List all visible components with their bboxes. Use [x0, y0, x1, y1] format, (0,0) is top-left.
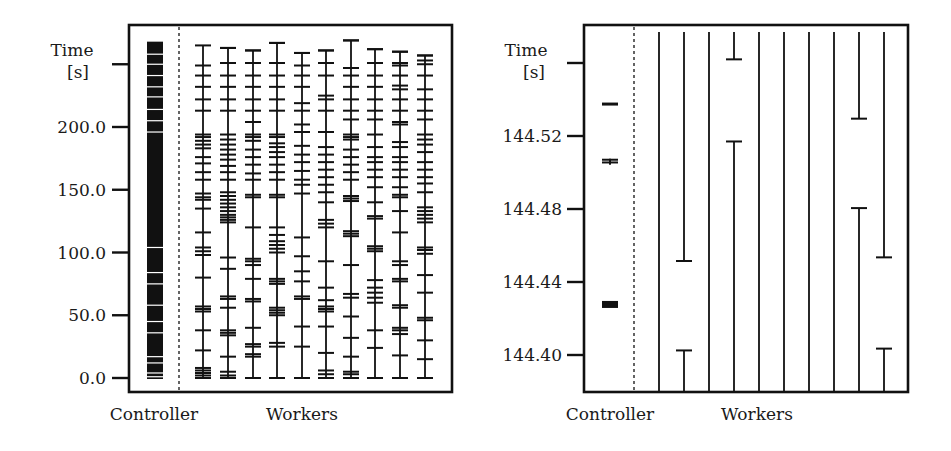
y-tick-label: 0.0: [79, 368, 106, 388]
controller-gap: [147, 131, 163, 132]
controller-gap: [147, 86, 163, 87]
worker-timeline: [392, 52, 408, 378]
left-y-label-time: Time: [51, 40, 94, 60]
left-controller-activity: [147, 42, 163, 379]
controller-gap: [147, 376, 163, 377]
worker-timeline: [876, 32, 892, 391]
right-y-label-unit: [s]: [523, 62, 545, 82]
timeline-figure: 0.050.0100.0150.0200.0 Time [s] Controll…: [0, 0, 951, 451]
worker-timeline: [195, 45, 211, 378]
controller-gap: [147, 120, 163, 121]
controller-gap: [147, 272, 163, 273]
controller-gap: [147, 356, 163, 357]
y-tick-label: 144.48: [503, 199, 562, 219]
worker-timeline: [245, 50, 261, 378]
left-x-label-controller: Controller: [110, 404, 199, 424]
left-plot-frame: [129, 25, 452, 392]
right-x-label-controller: Controller: [566, 404, 655, 424]
controller-gap: [147, 247, 163, 248]
y-tick-label: 200.0: [57, 117, 106, 137]
worker-timeline: [318, 50, 334, 378]
controller-gap: [147, 64, 163, 65]
y-tick-label: 144.44: [503, 272, 562, 292]
right-x-label-workers: Workers: [721, 404, 793, 424]
controller-gap: [147, 75, 163, 76]
y-tick-label: 100.0: [57, 243, 106, 263]
controller-gap: [147, 54, 163, 55]
y-tick-label: 144.52: [503, 126, 562, 146]
right-y-axis: 144.40144.44144.48144.52: [503, 63, 583, 365]
worker-timeline: [676, 32, 692, 391]
worker-timeline: [726, 32, 742, 391]
worker-timeline: [294, 53, 310, 378]
left-panel: 0.050.0100.0150.0200.0 Time [s] Controll…: [51, 25, 452, 424]
worker-timeline: [367, 49, 383, 378]
left-y-label-unit: [s]: [67, 62, 89, 82]
right-controller-activity: [602, 103, 618, 308]
left-x-label-workers: Workers: [266, 404, 338, 424]
left-y-axis: 0.050.0100.0150.0200.0: [57, 64, 128, 388]
y-tick-label: 144.40: [503, 345, 562, 365]
right-worker-timelines: [659, 32, 892, 391]
right-y-label-time: Time: [505, 40, 548, 60]
left-worker-timelines: [195, 40, 433, 378]
worker-timeline: [220, 48, 236, 378]
worker-timeline: [343, 40, 359, 378]
worker-timeline: [417, 55, 433, 378]
y-tick-label: 50.0: [68, 305, 106, 325]
right-panel: 144.40144.44144.48144.52 Time [s] Contro…: [503, 25, 908, 424]
controller-gap: [147, 305, 163, 306]
controller-event-block: [602, 301, 618, 308]
controller-activity-bar: [147, 42, 163, 379]
controller-gap: [147, 332, 163, 333]
controller-event-link: [609, 159, 611, 165]
worker-timeline: [851, 32, 867, 391]
worker-timeline: [269, 43, 285, 378]
controller-event-mark: [602, 103, 618, 106]
controller-gap: [147, 362, 163, 363]
controller-gap: [147, 321, 163, 322]
controller-gap: [147, 109, 163, 110]
controller-gap: [147, 372, 163, 373]
controller-gap: [147, 283, 163, 284]
y-tick-label: 150.0: [57, 180, 106, 200]
controller-gap: [147, 96, 163, 97]
